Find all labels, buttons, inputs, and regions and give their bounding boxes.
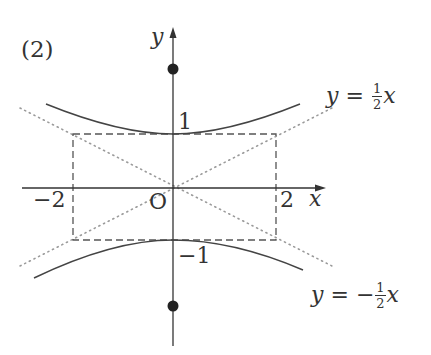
eq-var: x	[383, 83, 395, 108]
tick-label-x-neg: −2	[33, 189, 65, 211]
tick-label-x-pos: 2	[280, 189, 294, 211]
fraction-numerator: 1	[372, 82, 382, 97]
fraction-denominator: 2	[372, 97, 382, 111]
eq-lhs: y	[326, 83, 338, 108]
fraction: 12	[375, 281, 385, 310]
eq-neg: −	[356, 282, 374, 307]
fraction-denominator: 2	[375, 296, 385, 310]
focus-lower-dot	[168, 301, 179, 312]
asymptote-label-positive: y = 12x	[326, 82, 396, 111]
origin-label: O	[149, 191, 167, 213]
tick-label-y-pos: 1	[178, 111, 192, 133]
focus-upper-dot	[168, 64, 179, 75]
eq-lhs: y	[311, 282, 323, 307]
y-axis-label: y	[151, 26, 163, 48]
tick-label-y-neg: −1	[178, 245, 210, 267]
hyperbola-figure: (2) y x O 1 −1 −2 2 y = 12x y = −12x	[0, 0, 431, 355]
fraction: 12	[372, 82, 382, 111]
y-axis-arrow-icon	[170, 27, 177, 38]
fraction-numerator: 1	[375, 281, 385, 296]
eq-sign: =	[330, 282, 348, 307]
panel-label: (2)	[21, 38, 54, 61]
asymptote-label-negative: y = −12x	[311, 281, 399, 310]
hyperbola-lower-branch	[34, 240, 303, 278]
x-axis-label: x	[309, 188, 321, 210]
eq-var: x	[387, 282, 399, 307]
eq-sign: =	[345, 83, 363, 108]
